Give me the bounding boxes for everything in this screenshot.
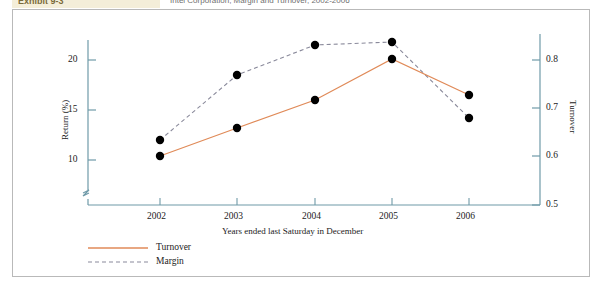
data-point-margin-2005 (388, 38, 396, 46)
x-tick-label-2006: 2006 (456, 211, 475, 221)
x-axis-title: Years ended last Saturday in December (222, 226, 363, 236)
series-margin (156, 38, 473, 144)
legend-swatches (88, 248, 148, 262)
data-point-margin-2003 (233, 71, 241, 79)
data-point-turnover-2002 (156, 152, 164, 160)
legend-label-margin: Margin (156, 256, 184, 266)
right-tick-label-06: 0.6 (546, 150, 558, 160)
series-turnover (156, 55, 473, 160)
data-point-margin-2004 (311, 41, 319, 49)
chart-screenshot: Exhibit 9-3 Intel Corporation, Margin an… (0, 0, 604, 288)
left-axis-title: Return (%) (60, 100, 70, 140)
right-axis (532, 34, 540, 205)
chart-plot-area: 20 15 10 Return (%) 0.8 0.7 0.6 0.5 Turn… (0, 0, 604, 288)
left-axis (83, 40, 96, 205)
x-tick-label-2003: 2003 (224, 211, 243, 221)
data-point-turnover-2003 (233, 124, 241, 132)
right-tick-label-08: 0.8 (546, 54, 558, 64)
x-tick-label-2004: 2004 (302, 211, 321, 221)
data-point-margin-2006 (465, 114, 473, 122)
data-point-turnover-2006 (465, 91, 473, 99)
x-tick-label-2005: 2005 (379, 211, 398, 221)
x-tick-label-2002: 2002 (147, 211, 166, 221)
x-axis (88, 198, 540, 205)
right-axis-title: Turnover (568, 100, 578, 133)
left-tick-label-10: 10 (68, 154, 78, 164)
data-point-turnover-2005 (388, 55, 396, 63)
right-tick-label-05: 0.5 (546, 199, 558, 209)
right-tick-label-07: 0.7 (546, 102, 558, 112)
chart-svg (0, 0, 604, 288)
legend-label-turnover: Turnover (156, 242, 191, 252)
data-point-turnover-2004 (311, 96, 319, 104)
left-tick-label-20: 20 (68, 54, 78, 64)
data-point-margin-2002 (156, 136, 164, 144)
